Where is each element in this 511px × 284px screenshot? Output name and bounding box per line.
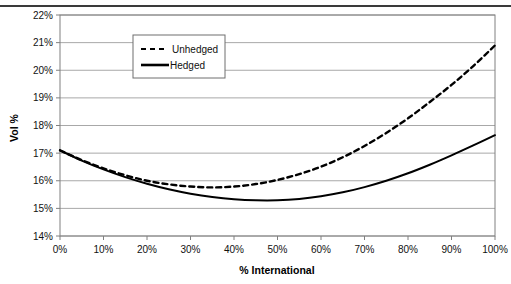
x-axis-tick-labels: 0%10%20%30%40%50%60%70%80%90%100% [53, 244, 508, 255]
y-tick-label-14: 14% [33, 231, 53, 242]
svg-text:% International: % International [239, 264, 314, 276]
chart-svg: 14%15%16%17%18%19%20%21%22% 0%10%20%30%4… [0, 0, 511, 284]
y-axis-tick-marks [56, 15, 60, 236]
x-tick-label-30: 30% [180, 244, 200, 255]
x-axis-title: % International [239, 264, 314, 276]
x-tick-label-0: 0% [53, 244, 68, 255]
x-tick-label-100: 100% [482, 244, 508, 255]
x-axis-tick-marks [60, 236, 495, 240]
y-axis-title: Vol % [8, 113, 20, 141]
x-tick-label-70: 70% [354, 244, 374, 255]
legend-box [133, 35, 225, 78]
y-tick-label-17: 17% [33, 148, 53, 159]
y-tick-label-16: 16% [33, 175, 53, 186]
x-tick-label-40: 40% [224, 244, 244, 255]
chart-legend: Unhedged Hedged [133, 35, 225, 78]
volatility-chart-figure: 14%15%16%17%18%19%20%21%22% 0%10%20%30%4… [0, 0, 511, 284]
x-tick-label-60: 60% [311, 244, 331, 255]
y-tick-label-18: 18% [33, 120, 53, 131]
y-tick-label-20: 20% [33, 65, 53, 76]
y-tick-label-22: 22% [33, 10, 53, 21]
legend-label-unhedged: Unhedged [172, 44, 218, 55]
x-tick-label-80: 80% [398, 244, 418, 255]
y-axis-tick-labels: 14%15%16%17%18%19%20%21%22% [33, 10, 53, 242]
x-tick-label-90: 90% [441, 244, 461, 255]
x-tick-label-20: 20% [137, 244, 157, 255]
x-tick-label-10: 10% [93, 244, 113, 255]
x-tick-label-50: 50% [267, 244, 287, 255]
chart-page: 14%15%16%17%18%19%20%21%22% 0%10%20%30%4… [0, 0, 511, 284]
y-tick-label-19: 19% [33, 92, 53, 103]
svg-text:Vol %: Vol % [8, 113, 20, 141]
legend-label-hedged: Hedged [170, 60, 205, 71]
y-tick-label-21: 21% [33, 37, 53, 48]
y-tick-label-15: 15% [33, 203, 53, 214]
